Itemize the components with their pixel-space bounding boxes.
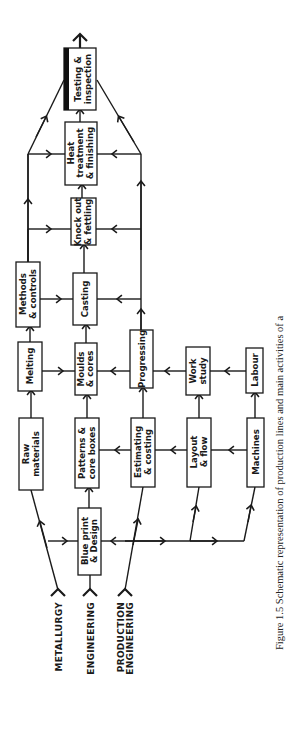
node-raw-materials: Raw materials (19, 418, 43, 490)
svg-text:Testing &: Testing & (73, 56, 83, 102)
svg-text:treatment: treatment (75, 128, 85, 177)
svg-text:Patterns &: Patterns & (77, 427, 87, 479)
svg-text:inspection: inspection (83, 54, 93, 104)
svg-text:Casting: Casting (80, 281, 90, 318)
source-engineering: ENGINEERING (86, 602, 96, 675)
node-testing: Testing & inspection (64, 48, 96, 110)
svg-text:Methods: Methods (18, 273, 28, 315)
node-casting: Casting (73, 273, 97, 325)
svg-text:& flow: & flow (199, 437, 209, 468)
metallurgy-arrowhead-icon (51, 589, 65, 596)
source-production-line2: ENGINEERING (125, 602, 135, 675)
svg-text:Machines: Machines (251, 429, 261, 475)
svg-text:Knock out: Knock out (73, 198, 83, 247)
svg-text:& fettling: & fettling (83, 199, 93, 245)
figure-caption: Figure 1.5 Schematic representation of p… (274, 316, 285, 650)
svg-text:& controls: & controls (28, 269, 38, 319)
node-knockout: Knock out & fettling (71, 198, 96, 247)
svg-text:& finishing: & finishing (85, 127, 95, 179)
node-patterns: Patterns & core boxes (75, 418, 99, 488)
svg-text:& cores: & cores (85, 351, 95, 388)
svg-text:Labour: Labour (250, 352, 260, 386)
svg-text:Layout: Layout (189, 436, 199, 469)
node-heat-treatment: Heat treatment & finishing (65, 122, 97, 185)
testing-bar (64, 48, 69, 110)
svg-text:Raw: Raw (21, 444, 31, 464)
svg-text:Melting: Melting (25, 348, 35, 385)
node-machines: Machines (247, 418, 264, 487)
prod-eng-arrowhead-icon (118, 589, 132, 596)
node-methods: Methods & controls (16, 262, 40, 327)
node-layout: Layout & flow (187, 418, 211, 487)
node-melting: Melting (18, 342, 42, 391)
svg-text:core boxes: core boxes (87, 427, 97, 480)
connectors (28, 34, 255, 596)
svg-text:Estimating: Estimating (133, 426, 143, 478)
node-progressing: Progressing (130, 330, 153, 388)
engineering-arrowhead-icon (83, 589, 97, 596)
node-estimating: Estimating & costing (131, 418, 155, 487)
source-metallurgy: METALLURGY (54, 602, 64, 672)
svg-text:Work: Work (188, 358, 198, 383)
svg-text:& Design: & Design (89, 519, 99, 563)
svg-text:materials: materials (31, 431, 41, 477)
node-moulds: Moulds & cores (75, 343, 97, 395)
svg-text:study: study (198, 357, 208, 384)
svg-text:Progressing: Progressing (137, 330, 147, 388)
node-labour: Labour (246, 348, 263, 393)
svg-text:& costing: & costing (143, 429, 153, 475)
node-blueprint: Blue print & Design (78, 508, 101, 575)
foundry-diagram: Testing & inspection Heat treatment & fi… (0, 0, 288, 739)
node-work-study: Work study (186, 347, 210, 395)
